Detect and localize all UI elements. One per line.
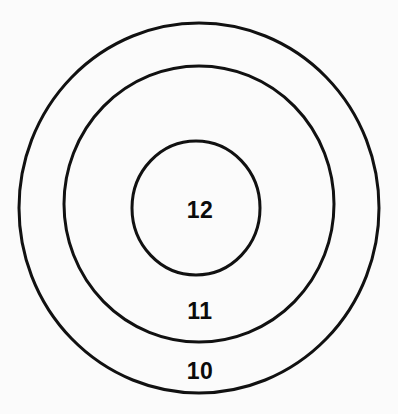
diagram-canvas: 12 11 10 [0, 0, 398, 414]
inner-ring-label: 12 [187, 197, 214, 223]
middle-ring-label: 11 [187, 298, 212, 324]
concentric-circles-diagram: 12 11 10 [0, 0, 398, 414]
outer-ring-label: 10 [187, 358, 214, 384]
